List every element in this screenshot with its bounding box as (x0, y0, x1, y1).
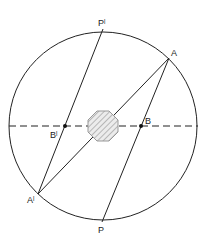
chord-a-p (102, 58, 169, 222)
chord-p-prime-a-prime (38, 29, 103, 194)
point-b-prime (63, 124, 67, 128)
label-a-prime: Aˡ (27, 195, 34, 205)
label-b-prime: Bˡ (50, 130, 57, 140)
diagram-canvas: Pˡ A B Bˡ Aˡ P (0, 0, 212, 244)
label-a: A (171, 48, 177, 58)
label-p-prime: Pˡ (98, 18, 105, 28)
label-p: P (98, 225, 104, 235)
central-obstacle-octagon (88, 111, 118, 141)
label-b: B (145, 116, 151, 126)
point-b (139, 124, 143, 128)
